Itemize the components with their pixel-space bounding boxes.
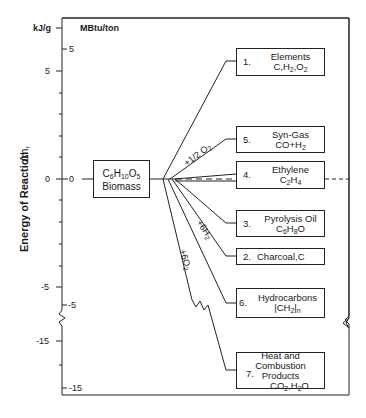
tick-label-mbtu-0: 0 [69, 174, 74, 184]
product-formula: |CH2|n [253, 303, 322, 313]
axis-title-text: Energy of Reaction [18, 152, 30, 252]
product-name: Charcoal,C [257, 252, 322, 262]
tick-label-kj-0: 0 [45, 174, 50, 184]
product-formula: CO+H2 [259, 140, 322, 150]
product-name: Heat and Combustion [237, 351, 324, 371]
product-number: 4. [243, 170, 251, 180]
product-number: 2. [243, 252, 251, 262]
product-formula: C2H4 [259, 175, 322, 185]
tick-label-kj-neg15: -15 [36, 336, 49, 346]
energy-axis [59, 18, 65, 395]
tick-label-mbtu-neg5: -5 [68, 300, 76, 310]
tick-label-kj-5: 5 [45, 66, 50, 76]
product-name: Elements [259, 52, 322, 62]
path-elements [163, 61, 236, 179]
product-formula: C,H2,O2 [259, 62, 322, 72]
delta-h-text: Δh [18, 149, 30, 162]
biomass-box: C6H10O5 Biomass [93, 160, 150, 198]
tick-label-kj-neg5: -5 [41, 282, 49, 292]
product-text: Ethylene C2H4 [259, 165, 322, 185]
path-ethylene [175, 174, 236, 179]
biomass-label: Biomass [94, 182, 149, 192]
product-number: 5. [243, 135, 251, 145]
unit-kj-per-g: kJ/g [33, 23, 51, 33]
product-box-charcoal: 2. Charcoal,C [236, 248, 325, 265]
product-number: 3. [243, 219, 251, 229]
path-charcoal [172, 179, 236, 256]
product-formula: C6H8O [259, 224, 322, 234]
product-box-combustion: 7. Heat and Combustion Products CO2,H2O [236, 352, 325, 389]
axis-title: Energy of Reaction [18, 152, 30, 252]
product-text: Heat and Combustion Products CO2,H2O [237, 351, 324, 391]
tick-label-mbtu-5: 5 [69, 44, 74, 54]
product-box-ethylene: 4. Ethylene C2H4 [236, 161, 325, 189]
product-formula: CO2,H2O [237, 381, 324, 391]
delta-h-symbol: Δhr [18, 146, 30, 162]
product-text: Charcoal,C [257, 252, 322, 262]
product-number: 6. [239, 298, 247, 308]
path-pyrolysis [175, 179, 236, 223]
product-text: Hydrocarbons |CH2|n [253, 293, 322, 313]
product-box-hydrocarbons: 6. Hydrocarbons |CH2|n [236, 288, 325, 318]
delta-h-sub: r [24, 146, 31, 148]
product-text: Syn-Gas CO+H2 [259, 130, 322, 150]
product-box-pyrolysis-oil: 3. Pyrolysis Oil C6H8O [236, 210, 325, 237]
tick-label-mbtu-neg15: -15 [69, 383, 82, 393]
product-number: 1. [243, 57, 251, 67]
biomass-formula: C6H10O5 [94, 169, 149, 179]
product-box-syngas: 5. Syn-Gas CO+H2 [236, 126, 325, 153]
product-text: Elements C,H2,O2 [259, 52, 322, 72]
product-box-elements: 1. Elements C,H2,O2 [236, 48, 325, 76]
unit-mbtu-per-ton: MBtu/ton [80, 23, 119, 33]
product-text: Pyrolysis Oil C6H8O [259, 214, 322, 234]
path-combustion [163, 179, 236, 370]
